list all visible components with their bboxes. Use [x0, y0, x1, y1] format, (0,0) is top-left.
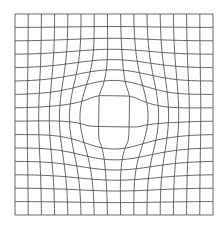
vertical-grid-lines [15, 14, 213, 215]
vertical-grid-line [134, 14, 148, 215]
horizontal-grid-line [15, 96, 213, 108]
horizontal-grid-line [15, 148, 213, 160]
vertical-grid-line [27, 14, 28, 215]
horizontal-grid-line [15, 60, 213, 68]
horizontal-grid-line [15, 161, 213, 170]
vertical-grid-line [69, 14, 81, 215]
horizontal-grid-line [15, 27, 213, 28]
vertical-grid-line [59, 14, 67, 215]
vertical-grid-line [147, 14, 159, 215]
vertical-grid-line [80, 14, 94, 215]
warped-grid-figure [0, 0, 223, 231]
vertical-grid-line [49, 14, 54, 215]
horizontal-grid-line [15, 38, 213, 41]
vertical-grid-line [160, 14, 168, 215]
horizontal-grid-line [15, 121, 213, 127]
horizontal-grid-line [15, 49, 213, 54]
warped-mesh-grid [0, 0, 223, 231]
vertical-grid-line [39, 14, 42, 215]
horizontal-grid-lines [15, 14, 213, 215]
vertical-grid-line [173, 14, 178, 215]
vertical-grid-line [200, 14, 201, 215]
horizontal-grid-line [15, 135, 213, 149]
vertical-grid-line [120, 14, 129, 215]
vertical-grid-line [187, 14, 190, 215]
horizontal-grid-line [15, 188, 213, 191]
horizontal-grid-line [15, 70, 213, 81]
vertical-grid-line [99, 14, 108, 215]
horizontal-grid-line [15, 175, 213, 180]
horizontal-grid-line [15, 80, 213, 94]
horizontal-grid-line [15, 202, 213, 203]
